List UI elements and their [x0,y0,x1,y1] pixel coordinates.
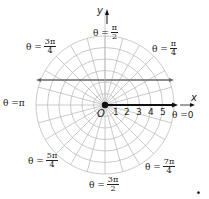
angle-label-pi-over-4: θ = π4 [152,40,177,57]
tick-label: 2 [124,107,130,117]
tick-label: 5 [160,107,166,117]
trailing-period: . [196,181,201,197]
origin-label: O [97,108,105,119]
angle-label-0: θ = 0 [172,110,194,120]
y-axis-label: y [97,5,103,16]
angle-label-3pi-over-2: θ = 3π2 [89,176,119,193]
angle-label-7pi-over-4: θ = 7π4 [145,158,175,175]
angle-label-5pi-over-4: θ = 5π4 [28,152,58,169]
tick-label: 1 [113,107,119,117]
x-axis-label: x [191,92,197,103]
angle-label-pi: θ = π [3,98,25,108]
angle-label-pi-over-2: θ = π2 [93,24,118,41]
tick-label: 3 [136,107,142,117]
angle-label-3pi-over-4: θ = 3π4 [26,38,56,55]
tick-label: 4 [148,107,154,117]
